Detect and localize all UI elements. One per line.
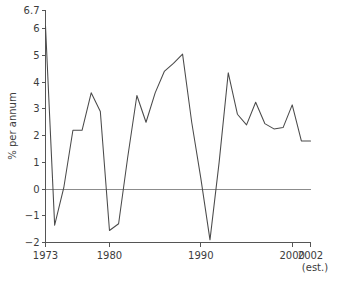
y-tick-label: 6.7 xyxy=(24,5,40,16)
y-axis-title: % per annum xyxy=(7,92,18,159)
y-tick-label: 1 xyxy=(33,157,39,168)
y-tick-label: 6 xyxy=(33,23,39,34)
x-axis-ticks xyxy=(46,243,311,247)
x-axis-tick-labels: 19731980199020002002 xyxy=(33,250,323,261)
y-tick-label: 2 xyxy=(33,130,39,141)
x-tick-label: 1990 xyxy=(188,250,213,261)
y-axis-tick-labels: 6.76543210−1−2 xyxy=(24,5,40,249)
y-tick-label: 5 xyxy=(33,50,39,61)
y-tick-label: −2 xyxy=(25,237,40,248)
y-axis-ticks xyxy=(42,10,46,243)
x-tick-label: 2002 xyxy=(298,250,323,261)
chart-container: 6.76543210−1−2 19731980199020002002 % pe… xyxy=(0,0,343,291)
x-tick-label: 1973 xyxy=(33,250,58,261)
y-tick-label: −1 xyxy=(25,210,40,221)
y-tick-label: 3 xyxy=(33,103,39,114)
estimate-note: (est.) xyxy=(302,262,328,273)
y-tick-label: 0 xyxy=(33,184,39,195)
line-chart: 6.76543210−1−2 19731980199020002002 % pe… xyxy=(0,0,343,291)
data-series-line xyxy=(46,26,311,240)
data-series-group xyxy=(46,26,311,240)
x-tick-label: 1980 xyxy=(97,250,122,261)
y-tick-label: 4 xyxy=(33,77,39,88)
